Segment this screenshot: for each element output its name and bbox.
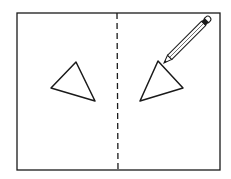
reflection-diagram xyxy=(0,0,231,179)
